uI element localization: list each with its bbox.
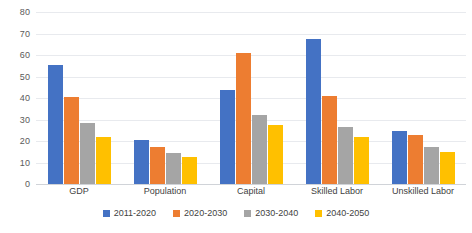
- bar[interactable]: [354, 137, 369, 184]
- y-axis-tick: 0: [25, 179, 30, 189]
- bar[interactable]: [134, 140, 149, 184]
- bar-group: [208, 12, 294, 184]
- bar-group: [122, 12, 208, 184]
- y-axis-tick: 20: [20, 136, 30, 146]
- category-label: Population: [122, 186, 208, 196]
- bar[interactable]: [166, 153, 181, 184]
- category-label: GDP: [36, 186, 122, 196]
- bar[interactable]: [182, 157, 197, 184]
- legend-swatch-icon: [103, 210, 110, 217]
- category-axis-labels: GDPPopulationCapitalSkilled LaborUnskill…: [36, 186, 466, 196]
- y-axis-tick: 80: [20, 7, 30, 17]
- bar[interactable]: [268, 125, 283, 184]
- y-axis-tick: 60: [20, 50, 30, 60]
- axis-baseline: [36, 184, 466, 185]
- bar[interactable]: [408, 135, 423, 184]
- y-axis-tick: 70: [20, 29, 30, 39]
- y-axis-tick: 50: [20, 72, 30, 82]
- bar[interactable]: [64, 97, 79, 184]
- bar[interactable]: [252, 115, 267, 184]
- bar-group: [380, 12, 466, 184]
- legend-item[interactable]: 2020-2030: [173, 208, 227, 218]
- legend-item[interactable]: 2011-2020: [103, 208, 156, 218]
- y-axis-tick: 40: [20, 93, 30, 103]
- bar[interactable]: [424, 147, 439, 184]
- y-axis: 80706050403020100: [0, 12, 34, 184]
- bar[interactable]: [80, 123, 95, 184]
- legend-item[interactable]: 2030-2040: [244, 208, 298, 218]
- bar-group: [294, 12, 380, 184]
- legend-label: 2040-2050: [326, 208, 369, 218]
- category-label: Unskilled Labor: [380, 186, 466, 196]
- bar[interactable]: [96, 137, 111, 184]
- bar[interactable]: [322, 96, 337, 184]
- legend-swatch-icon: [173, 210, 180, 217]
- bar-group: [36, 12, 122, 184]
- legend-swatch-icon: [315, 210, 322, 217]
- plot-area: [36, 12, 466, 184]
- legend-swatch-icon: [244, 210, 251, 217]
- bar[interactable]: [236, 53, 251, 184]
- bar[interactable]: [392, 131, 407, 184]
- bar[interactable]: [220, 90, 235, 184]
- legend-item[interactable]: 2040-2050: [315, 208, 369, 218]
- bar-chart: 80706050403020100 GDPPopulationCapitalSk…: [0, 0, 472, 233]
- legend-label: 2011-2020: [114, 208, 156, 218]
- chart-legend: 2011-20202020-20302030-20402040-2050: [0, 208, 472, 218]
- y-axis-tick: 30: [20, 115, 30, 125]
- bar[interactable]: [440, 152, 455, 184]
- bar[interactable]: [48, 65, 63, 184]
- legend-label: 2020-2030: [184, 208, 227, 218]
- bar[interactable]: [306, 39, 321, 184]
- bar-groups: [36, 12, 466, 184]
- category-label: Capital: [208, 186, 294, 196]
- bar[interactable]: [338, 127, 353, 184]
- legend-label: 2030-2040: [255, 208, 298, 218]
- category-label: Skilled Labor: [294, 186, 380, 196]
- bar[interactable]: [150, 147, 165, 184]
- plot-wrapper: 80706050403020100: [0, 0, 472, 196]
- y-axis-tick: 10: [20, 158, 30, 168]
